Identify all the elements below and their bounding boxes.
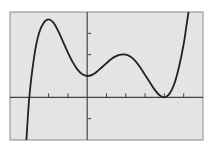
function-graph — [0, 0, 215, 149]
